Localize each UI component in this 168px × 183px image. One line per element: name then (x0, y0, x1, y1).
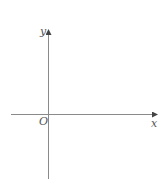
origin-label: O (39, 115, 48, 128)
x-axis-label: x (151, 117, 158, 130)
y-axis-label: y (39, 25, 47, 38)
coordinate-plane: y O x (0, 0, 168, 183)
